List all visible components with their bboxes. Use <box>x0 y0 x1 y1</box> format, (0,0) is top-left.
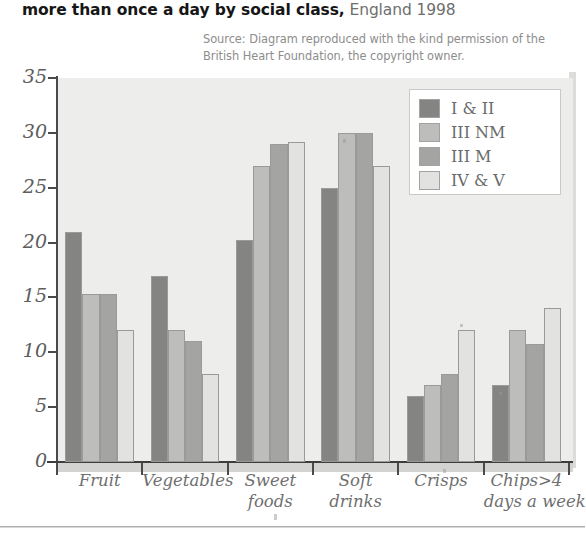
x-axis-label-line: Crisps <box>398 470 483 491</box>
x-axis-label-line: days a week <box>484 491 569 512</box>
x-axis-label-line: Sweet <box>228 470 313 491</box>
scan-speck <box>460 324 463 327</box>
bar <box>236 240 253 462</box>
bar <box>202 374 219 462</box>
bar <box>253 166 270 462</box>
y-axis-tick-label: 20 <box>17 232 47 251</box>
x-axis-labels: FruitVegetablesSweetfoodsSoftdrinksCrisp… <box>0 470 585 530</box>
y-axis-tick-label: 30 <box>17 122 47 141</box>
chart-title: more than once a day by social class, En… <box>0 0 585 26</box>
legend-swatch <box>419 147 440 166</box>
x-axis-label: Chips>4days a week <box>484 470 569 512</box>
x-axis-label-line: foods <box>228 491 313 512</box>
chart-title-subtitle: England 1998 <box>345 1 456 19</box>
legend-swatch <box>419 99 440 118</box>
legend-label: I & II <box>451 97 494 121</box>
bar <box>65 232 82 462</box>
bar <box>526 344 543 462</box>
x-axis-label-line: Fruit <box>57 470 142 491</box>
bar <box>82 294 99 462</box>
legend-label: III NM <box>451 121 505 145</box>
source-note-line-2: British Heart Foundation, the copyright … <box>203 48 583 65</box>
scan-speck <box>499 392 502 395</box>
bar <box>168 330 185 462</box>
bar <box>458 330 475 462</box>
bar <box>185 341 202 462</box>
legend-swatch <box>419 123 440 142</box>
bar <box>321 188 338 462</box>
x-axis-label: Fruit <box>57 470 142 491</box>
y-axis-tick-label: 0 <box>17 451 47 470</box>
scan-speck <box>343 139 346 143</box>
y-axis-ticks: 05101520253035 <box>0 0 47 533</box>
legend: I & IIIII NMIII MIV & V <box>409 89 561 195</box>
chart-title-main: more than once a day by social class, <box>22 1 345 19</box>
y-axis-tick-label: 25 <box>17 177 47 196</box>
bar <box>288 142 305 462</box>
x-axis-label-line: Chips>4 <box>484 470 569 491</box>
legend-swatch <box>419 171 440 190</box>
legend-label: III M <box>451 145 491 169</box>
bar <box>544 308 561 462</box>
y-axis-tick-label: 10 <box>17 341 47 360</box>
x-axis-label-line: Vegetables <box>142 470 227 491</box>
bar <box>117 330 134 462</box>
source-note: Source: Diagram reproduced with the kind… <box>203 31 583 64</box>
x-axis-label: Crisps <box>398 470 483 491</box>
legend-label: IV & V <box>451 169 505 193</box>
bar <box>424 385 441 462</box>
bar <box>356 133 373 462</box>
bar <box>407 396 424 462</box>
x-axis-label-line: Soft <box>313 470 398 491</box>
bar <box>270 144 287 462</box>
x-axis-label: Softdrinks <box>313 470 398 512</box>
bar <box>338 133 355 462</box>
bar <box>492 385 509 462</box>
y-axis-tick-label: 5 <box>17 396 47 415</box>
y-axis-tick-label: 15 <box>17 286 47 305</box>
bar <box>373 166 390 462</box>
x-axis-label: Sweetfoods <box>228 470 313 512</box>
bar <box>100 294 117 462</box>
bar <box>151 276 168 463</box>
x-axis-label-line: drinks <box>313 491 398 512</box>
footer-divider-shadow <box>0 527 585 528</box>
bar <box>509 330 526 462</box>
y-axis-tick-label: 35 <box>17 67 47 86</box>
x-axis-label: Vegetables <box>142 470 227 491</box>
bar <box>441 374 458 462</box>
source-note-line-1: Source: Diagram reproduced with the kind… <box>203 31 583 48</box>
